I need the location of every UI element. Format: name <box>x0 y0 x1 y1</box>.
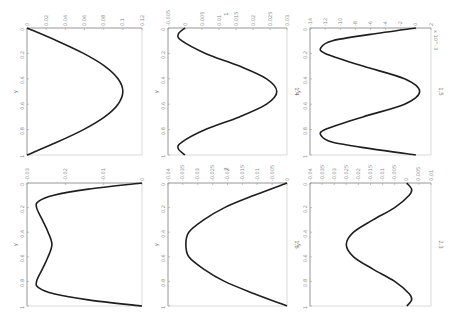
value-tick-label: -0.01 <box>379 168 385 181</box>
param-tick-label: 0.8 <box>19 127 25 135</box>
value-tick-label: -0.015 <box>367 165 373 181</box>
value-tick-label: -0.01 <box>100 168 106 181</box>
value-tick-label: 0.005 <box>415 167 421 181</box>
param-tick-label: 1 <box>19 306 25 309</box>
param-tick-label: 0.6 <box>302 254 308 262</box>
param-tick-label: 0.4 <box>160 76 166 84</box>
plot-frame <box>168 28 287 155</box>
value-tick-label: 0.015 <box>233 12 239 26</box>
value-tick-label: -0.02 <box>62 168 68 181</box>
value-tick-label: 0.02 <box>250 15 256 26</box>
param-tick-label: 0.2 <box>160 205 166 213</box>
subplot-top-middle: -0.00500.0050.010.0150.020.0250.0300.20.… <box>153 10 300 158</box>
value-tick-label: -14 <box>307 18 313 26</box>
param-tick-label: 0 <box>19 183 25 186</box>
value-tick-label: -0.015 <box>239 165 245 181</box>
param-tick-label: 0.2 <box>302 51 308 59</box>
param-tick-label: 0 <box>302 28 308 31</box>
value-tick-label: -10 <box>337 18 343 26</box>
param-tick-label: 1 <box>19 155 25 158</box>
value-tick-label: 0.005 <box>199 12 205 26</box>
value-tick-label: 2 <box>428 23 434 26</box>
param-tick-label: 0.2 <box>160 51 166 59</box>
plot-frame <box>310 28 431 155</box>
value-tick-label: -0.03 <box>331 168 337 181</box>
param-tick-label: 0.2 <box>19 205 25 213</box>
value-tick-label: -0.005 <box>391 165 397 181</box>
param-tick-label: 0.6 <box>19 254 25 262</box>
param-tick-label: 0 <box>19 28 25 31</box>
param-tick-label: 0.4 <box>19 76 25 84</box>
value-tick-label: -0.04 <box>307 168 313 181</box>
param-tick-label: 0.4 <box>19 230 25 238</box>
param-tick-label: 0 <box>160 28 166 31</box>
param-tick-label: 0 <box>160 183 166 186</box>
subplot-top-left: 00.020.040.060.080.10.1200.20.40.60.81y <box>12 15 145 158</box>
value-tick-label: -0.035 <box>319 165 325 181</box>
param-tick-label: 0.6 <box>160 102 166 110</box>
param-tick-label: 1 <box>302 306 308 309</box>
subplot-title: 2.3 <box>438 240 444 249</box>
value-tick-label: -0.005 <box>165 10 171 26</box>
plot-frame <box>310 183 431 306</box>
value-axis-label: 2 <box>223 167 229 171</box>
param-axis-label: y <box>12 89 19 93</box>
subplot-title: 1.5 <box>438 87 444 96</box>
param-axis-label: y <box>153 89 160 93</box>
value-tick-label: -0.025 <box>209 165 215 181</box>
value-tick-label: -0.04 <box>165 168 171 181</box>
value-tick-label: -12 <box>322 18 328 26</box>
data-curve <box>27 28 123 155</box>
value-tick-label: 0.025 <box>267 12 273 26</box>
param-tick-label: 0.8 <box>302 279 308 287</box>
value-tick-label: 0.03 <box>284 15 290 26</box>
data-curve <box>320 28 420 155</box>
data-curve <box>36 183 142 306</box>
data-curve <box>186 183 287 306</box>
value-tick-label: -2 <box>397 21 403 26</box>
param-axis-label: y <box>12 242 19 246</box>
param-tick-label: 0 <box>302 183 308 186</box>
subplot-bottom-left: -0.03-0.02-0.01000.20.40.60.81y <box>12 168 145 309</box>
param-tick-label: 0.6 <box>302 102 308 110</box>
param-tick-label: 0.2 <box>302 205 308 213</box>
plot-frame <box>27 183 142 306</box>
param-tick-label: 0.4 <box>302 230 308 238</box>
param-tick-label: 1 <box>160 155 166 158</box>
value-tick-label: 0.04 <box>62 15 68 26</box>
subplot-top-right: -14-12-10-8-6-4-20200.20.40.60.81yx 10^-… <box>295 18 444 158</box>
value-tick-label: 0.06 <box>81 15 87 26</box>
value-tick-label: -0.025 <box>343 165 349 181</box>
subplot-bottom-right: -0.04-0.035-0.03-0.025-0.02-0.015-0.01-0… <box>295 165 444 309</box>
value-tick-label: 0 <box>182 23 188 26</box>
data-curve <box>178 28 277 155</box>
value-tick-label: -0.03 <box>24 168 30 181</box>
value-tick-label: 0 <box>139 178 145 181</box>
value-tick-label: -6 <box>367 21 373 26</box>
value-tick-label: -0.005 <box>269 165 275 181</box>
param-tick-label: 0.8 <box>19 279 25 287</box>
param-tick-label: 1 <box>160 306 166 309</box>
subplot-bottom-middle: -0.04-0.035-0.03-0.025-0.02-0.015-0.01-0… <box>153 165 300 309</box>
value-tick-label: -0.01 <box>254 168 260 181</box>
scale-factor-label: x 10^-3 <box>433 30 439 50</box>
value-tick-label: 0 <box>24 23 30 26</box>
param-tick-label: 0.2 <box>19 51 25 59</box>
param-axis-label: y <box>153 242 160 246</box>
param-tick-label: 1 <box>302 155 308 158</box>
value-tick-label: 0 <box>403 178 409 181</box>
value-tick-label: 0.12 <box>139 15 145 26</box>
value-tick-label: -0.02 <box>355 168 361 181</box>
plot-frame <box>27 28 142 155</box>
param-tick-label: 0.6 <box>19 102 25 110</box>
value-tick-label: 0.01 <box>216 15 222 26</box>
param-tick-label: 0.8 <box>302 127 308 135</box>
value-tick-label: 0.02 <box>43 15 49 26</box>
param-tick-label: 0.4 <box>160 230 166 238</box>
param-tick-label: 0.8 <box>160 279 166 287</box>
value-tick-label: -0.03 <box>194 168 200 181</box>
data-curve <box>346 183 412 306</box>
value-tick-label: 0.1 <box>119 18 125 26</box>
value-axis-label: 1 <box>223 12 229 16</box>
value-tick-label: -8 <box>352 21 358 26</box>
